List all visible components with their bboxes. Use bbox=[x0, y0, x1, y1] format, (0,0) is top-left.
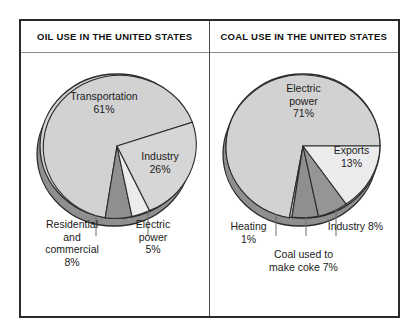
label-oil-industry-value: 26% bbox=[149, 163, 170, 175]
panels-container: OIL USE IN THE UNITED STATES bbox=[21, 21, 398, 316]
label-coal-electric-power: Electric power 71% bbox=[266, 82, 342, 120]
callout-oil-electric-value: 5% bbox=[145, 243, 160, 255]
callout-residential-line1: Residential bbox=[46, 218, 98, 230]
label-coal-electric-line2: power bbox=[289, 95, 318, 107]
panel-title-oil: OIL USE IN THE UNITED STATES bbox=[21, 21, 209, 53]
panel-title-coal: COAL USE IN THE UNITED STATES bbox=[210, 21, 399, 53]
callout-coal-industry-text: Industry 8% bbox=[328, 220, 383, 232]
callout-coke: Coal used to make coke 7% bbox=[244, 248, 364, 273]
chart-area-coal: Electric power 71% Exports 13% Heating 1… bbox=[210, 52, 399, 316]
callout-oil-electric-line2: power bbox=[139, 231, 168, 243]
label-exports-value: 13% bbox=[341, 157, 362, 169]
callout-heating-value: 1% bbox=[241, 233, 256, 245]
callout-coke-line2: make coke 7% bbox=[269, 261, 338, 273]
label-coal-electric-line1: Electric bbox=[286, 82, 320, 94]
label-coal-electric-value: 71% bbox=[293, 107, 314, 119]
pie-chart-oil bbox=[21, 54, 209, 236]
callout-oil-electric-line1: Electric bbox=[136, 218, 170, 230]
label-transportation: Transportation 61% bbox=[49, 90, 159, 115]
label-exports: Exports 13% bbox=[320, 144, 384, 169]
callout-coal-industry: Industry 8% bbox=[314, 220, 398, 233]
callout-residential-line3: commercial bbox=[45, 243, 99, 255]
label-oil-industry: Industry 26% bbox=[125, 150, 195, 175]
label-oil-industry-name: Industry bbox=[141, 150, 178, 162]
label-transportation-name: Transportation bbox=[70, 90, 137, 102]
panel-coal: COAL USE IN THE UNITED STATES bbox=[210, 21, 399, 316]
callout-heating: Heating 1% bbox=[216, 220, 282, 245]
callout-oil-electric-power: Electric power 5% bbox=[117, 218, 189, 256]
callout-residential: Residential and commercial 8% bbox=[29, 218, 115, 268]
panel-oil: OIL USE IN THE UNITED STATES bbox=[21, 21, 210, 316]
label-exports-name: Exports bbox=[334, 144, 370, 156]
figure-frame: OIL USE IN THE UNITED STATES bbox=[19, 19, 400, 318]
pie-oil-svg bbox=[22, 54, 207, 236]
callout-residential-line2: and bbox=[63, 231, 81, 243]
chart-area-oil: Transportation 61% Industry 26% Resident… bbox=[21, 52, 209, 316]
label-transportation-value: 61% bbox=[93, 103, 114, 115]
callout-coke-line1: Coal used to bbox=[274, 248, 333, 260]
callout-residential-value: 8% bbox=[64, 256, 79, 268]
callout-heating-line1: Heating bbox=[230, 220, 266, 232]
